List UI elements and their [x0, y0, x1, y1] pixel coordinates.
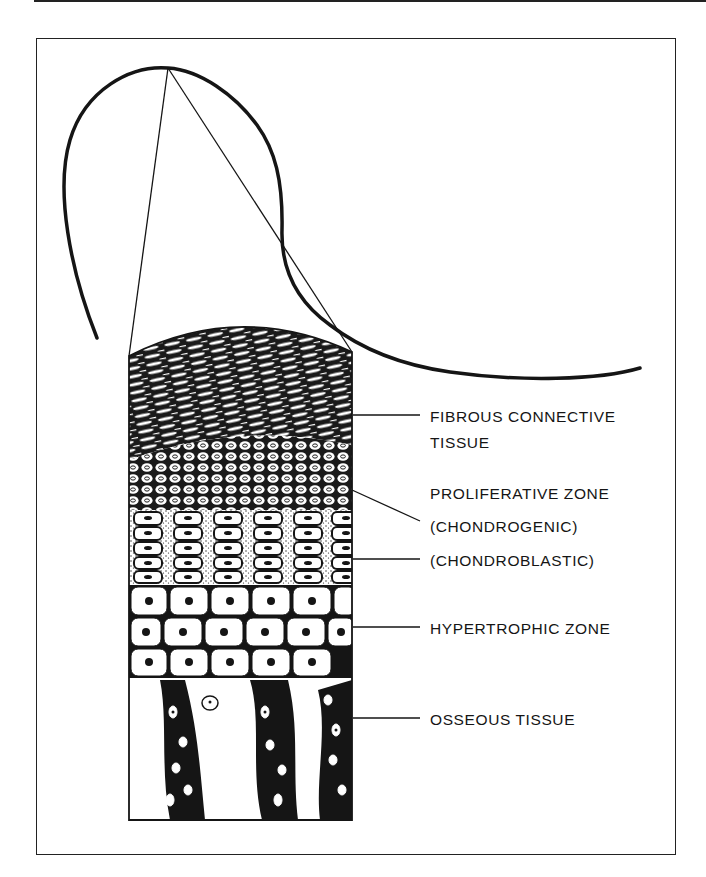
label-hypertrophic: HYPERTROPHIC ZONE [430, 621, 610, 637]
figure-illustration [0, 0, 706, 877]
tissue-column [129, 300, 360, 820]
label-proliferative-line2: (CHONDROGENIC) [430, 519, 578, 535]
label-fibrous-line2: TISSUE [430, 435, 490, 451]
label-chondroblastic: (CHONDROBLASTIC) [430, 553, 595, 569]
label-osseous: OSSEOUS TISSUE [430, 712, 575, 728]
bone-outline [64, 68, 640, 379]
leader-lines [352, 415, 420, 718]
label-fibrous-line1: FIBROUS CONNECTIVE [430, 409, 616, 425]
label-proliferative-line1: PROLIFERATIVE ZONE [430, 486, 609, 502]
